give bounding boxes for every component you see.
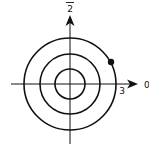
right-axis-label: 0 [144, 80, 149, 90]
top-axis-label: 2 [67, 4, 73, 14]
plotted-point [108, 59, 114, 65]
radius-label: 3 [119, 86, 125, 96]
polar-diagram: 2 3 0 [0, 0, 149, 144]
